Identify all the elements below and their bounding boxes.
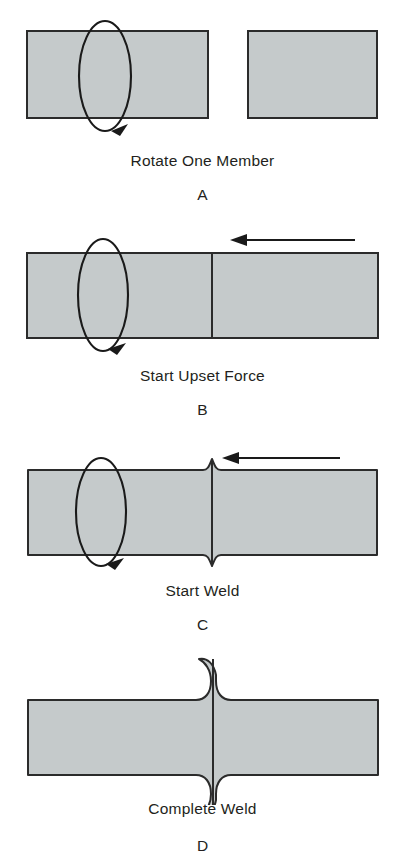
panel-d: Complete Weld D bbox=[0, 645, 405, 860]
panel-a-illustration bbox=[0, 0, 405, 145]
panel-a-letter: A bbox=[0, 186, 405, 204]
upset-force-arrowhead-icon bbox=[230, 234, 247, 246]
panel-d-illustration bbox=[0, 645, 405, 805]
bar-welded-member-with-flash bbox=[28, 659, 378, 805]
panel-c-illustration bbox=[0, 430, 405, 575]
bar-joined-member-with-small-flash bbox=[28, 459, 377, 566]
upset-force-arrowhead-icon bbox=[222, 452, 239, 464]
friction-welding-figure: Rotate One Member A Start Upset Force B bbox=[0, 0, 405, 860]
panel-c-letter: C bbox=[0, 616, 405, 634]
panel-b-illustration bbox=[0, 215, 405, 360]
bar-joined-member bbox=[27, 253, 378, 338]
bar-right-member bbox=[248, 31, 377, 118]
rotation-arrowhead-icon bbox=[108, 343, 126, 355]
panel-a-caption: Rotate One Member bbox=[0, 152, 405, 170]
panel-d-caption: Complete Weld bbox=[0, 800, 405, 818]
rotation-arrowhead-icon bbox=[106, 558, 124, 570]
panel-a: Rotate One Member A bbox=[0, 0, 405, 215]
rotation-arrowhead-icon bbox=[111, 124, 128, 136]
panel-b: Start Upset Force B bbox=[0, 215, 405, 430]
panel-c-caption: Start Weld bbox=[0, 582, 405, 600]
panel-d-letter: D bbox=[0, 837, 405, 855]
bar-left-member bbox=[27, 31, 208, 118]
panel-c: Start Weld C bbox=[0, 430, 405, 645]
panel-b-letter: B bbox=[0, 401, 405, 419]
panel-b-caption: Start Upset Force bbox=[0, 367, 405, 385]
